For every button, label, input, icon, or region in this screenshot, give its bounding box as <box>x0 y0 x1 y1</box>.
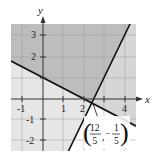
x-axis-arrow-icon <box>136 97 143 102</box>
svg-text:5: 5 <box>93 136 98 146</box>
x-tick-label: -1 <box>17 103 25 114</box>
y-axis-label: y <box>37 4 43 16</box>
y-tick-label: 3 <box>31 29 36 40</box>
y-tick-label: -1 <box>26 114 34 125</box>
svg-text:5: 5 <box>114 136 119 146</box>
x-axis-label: x <box>144 93 150 105</box>
x-tick-label: 1 <box>61 103 66 114</box>
svg-text:−: − <box>105 129 110 139</box>
x-tick-label: 2 <box>80 103 85 114</box>
svg-text:12: 12 <box>90 123 100 133</box>
y-axis-arrow-icon <box>41 16 46 23</box>
svg-text:1: 1 <box>114 123 119 133</box>
inequality-graph: x y -1 1 2 4 3 2 -1 -2 ( 12 5 , − 1 5 ) <box>0 0 153 160</box>
x-tick-label: 4 <box>122 103 127 114</box>
y-tick-label: -2 <box>26 135 34 146</box>
y-tick-label: 2 <box>31 51 36 62</box>
svg-text:): ) <box>120 118 129 147</box>
